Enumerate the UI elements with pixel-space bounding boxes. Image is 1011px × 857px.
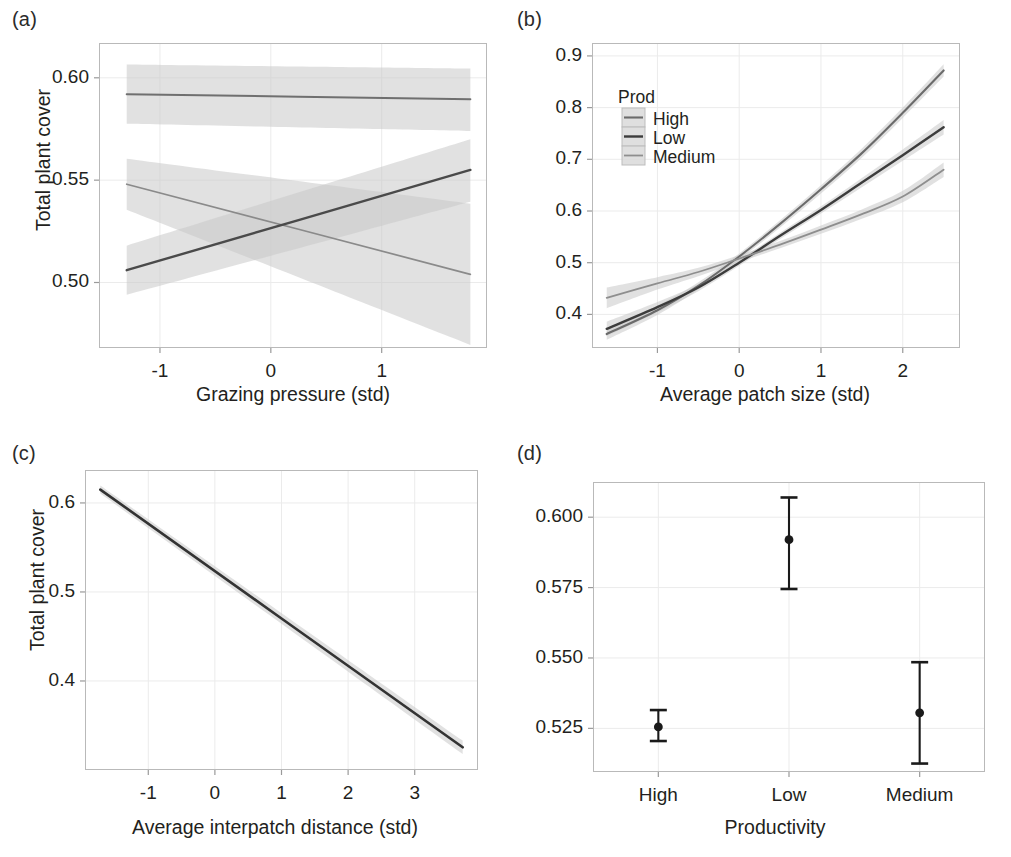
- panel-a: (a) Total plant cover Grazing pressure (…: [0, 0, 505, 420]
- panel-a-plot-ytick-label: 0.55: [0, 168, 89, 190]
- panel-b-plot-ytick-label: 0.9: [492, 44, 582, 66]
- panel-b-legend-item-medium: Medium: [653, 147, 715, 168]
- panel-a-plot-ytick-label: 0.60: [0, 66, 89, 88]
- panel-b-legend-item-low: Low: [653, 128, 685, 149]
- panel-d-category-label-high: High: [598, 784, 718, 806]
- panel-d-category-label-low: Low: [729, 784, 849, 806]
- panel-b-legend-item-high: High: [653, 109, 689, 130]
- panel-a-plot: [0, 0, 505, 420]
- panel-a-plot-ytick-label: 0.50: [0, 270, 89, 292]
- panel-d: (d) Productivity 0.5250.5500.5750.600Hig…: [505, 420, 1011, 857]
- panel-a-plot-xtick-label: -1: [120, 360, 200, 382]
- panel-d-category-label-medium: Medium: [860, 784, 980, 806]
- panel-b-plot-ytick-label: 0.7: [492, 147, 582, 169]
- panel-b-plot-xtick-label: 0: [699, 360, 779, 382]
- figure-root: (a) Total plant cover Grazing pressure (…: [0, 0, 1011, 857]
- panel-c-plot-ytick-label: 0.4: [0, 669, 75, 691]
- panel-b-plot-ytick-label: 0.4: [492, 302, 582, 324]
- panel-a-plot-xtick-label: 1: [342, 360, 422, 382]
- panel-c-plot-ytick-label: 0.5: [0, 580, 75, 602]
- panel-b-plot-xtick-label: 1: [781, 360, 861, 382]
- panel-b-plot-xtick-label: 2: [863, 360, 943, 382]
- panel-b-legend-title: Prod: [618, 87, 655, 108]
- panel-b-plot-xtick-label: -1: [617, 360, 697, 382]
- panel-d-ytick-label: 0.525: [488, 716, 583, 738]
- panel-b-plot-ytick-label: 0.6: [492, 199, 582, 221]
- panel-b-plot-ytick-label: 0.5: [492, 251, 582, 273]
- panel-d-ytick-label: 0.550: [488, 646, 583, 668]
- panel-c: (c) Total plant cover Average interpatch…: [0, 420, 505, 857]
- panel-b: (b) Average patch size (std) Prod 0.40.5…: [505, 0, 1011, 420]
- panel-a-plot-xtick-label: 0: [231, 360, 311, 382]
- panel-b-plot-ytick-label: 0.8: [492, 96, 582, 118]
- panel-d-ytick-label: 0.575: [488, 576, 583, 598]
- panel-c-plot-ytick-label: 0.6: [0, 491, 75, 513]
- panel-d-ytick-label: 0.600: [488, 505, 583, 527]
- panel-c-plot-xtick-label: 3: [375, 782, 455, 804]
